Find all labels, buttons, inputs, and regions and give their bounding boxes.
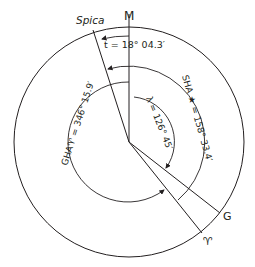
sha-value-label: SHA ★ = 158° 33.4′	[180, 74, 214, 163]
t-value-label: t = 18° 04.3′	[104, 39, 165, 50]
greenwich-label: G	[223, 210, 232, 223]
aries-label: ♈	[203, 235, 213, 248]
aries-line	[129, 142, 202, 233]
meridian-label: M	[124, 9, 134, 23]
time-diagram: M Spica G ♈ t = 18° 04.3′ SHA ★ = 158° 3…	[0, 0, 255, 267]
spica-label: Spica	[76, 14, 104, 26]
gha-aries-value-label: GHA♈ = 346° 15.9′	[59, 80, 96, 167]
